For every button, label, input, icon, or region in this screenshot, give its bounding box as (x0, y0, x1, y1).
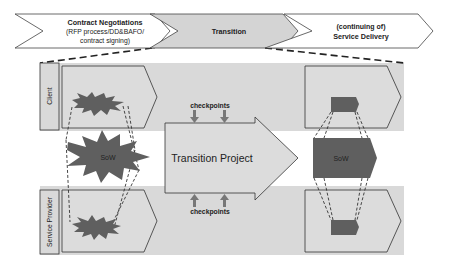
phase-1-subtitle-2: contract signing) (80, 37, 130, 45)
transition-project-label: Transition Project (171, 152, 252, 164)
checkpoints-top-label: checkpoints (190, 102, 230, 110)
left-sow-label: SoW (100, 154, 116, 161)
checkpoints-bottom-label: checkpoints (190, 208, 230, 216)
provider-sow-block (331, 220, 359, 235)
phase-zoom-lines (40, 48, 404, 63)
service-provider-label: Service Provider (46, 196, 53, 247)
phase-2-title: Transition (212, 27, 246, 36)
phase-3-title-1: (continuing of) (337, 23, 386, 31)
right-sow-label: SoW (333, 155, 349, 162)
client-sow-block (331, 97, 359, 112)
client-contract-phase-shape (62, 66, 157, 128)
client-label: Client (46, 87, 53, 104)
phase-1-subtitle-1: (RFP process/DD&BAFO/ (66, 28, 144, 36)
phase-3-title-2: Service Delivery (333, 32, 389, 41)
transition-diagram: Contract Negotiations (RFP process/DD&BA… (0, 0, 451, 268)
phase-1-title: Contract Negotiations (67, 18, 142, 27)
